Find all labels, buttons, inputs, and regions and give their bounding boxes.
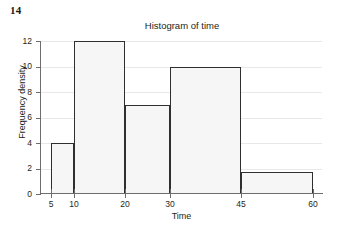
plot-area [40,41,322,194]
y-tick-mark [36,92,41,93]
x-tick-label: 30 [158,199,182,209]
x-axis-line [40,193,323,194]
histogram-figure: 14 Histogram of time 024681012 510203045… [0,0,340,229]
x-tick-mark [241,189,242,198]
x-tick-label: 45 [229,199,253,209]
y-tick-mark [36,169,41,170]
x-tick-mark [51,189,52,198]
exercise-number: 14 [10,4,21,16]
histogram-bar [51,143,74,194]
y-tick-mark [36,194,41,195]
x-tick-mark [313,189,314,198]
x-tick-mark [74,189,75,198]
x-tick-label: 10 [62,199,86,209]
y-tick-mark [36,41,41,42]
x-tick-mark [170,189,171,198]
x-tick-label: 5 [39,199,63,209]
x-axis-title: Time [40,211,323,221]
chart-title: Histogram of time [51,20,313,31]
y-tick-mark [36,143,41,144]
histogram-bar [170,67,241,195]
x-tick-label: 20 [113,199,137,209]
y-tick-label: 0 [10,190,32,199]
x-tick-label: 60 [301,199,325,209]
histogram-bar [125,105,170,194]
y-axis-title: Frequency density [17,32,27,172]
y-tick-mark [36,67,41,68]
x-tick-mark [125,189,126,198]
histogram-bar [74,41,125,194]
histogram-bar [241,172,313,194]
y-tick-mark [36,118,41,119]
